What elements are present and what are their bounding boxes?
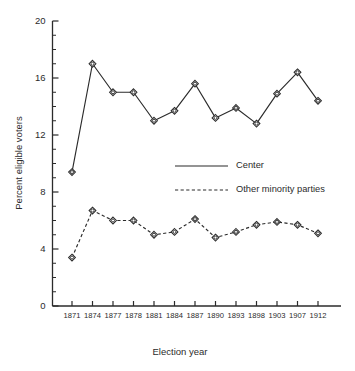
- x-tick-label: 1898: [248, 311, 265, 320]
- data-point-center: [132, 219, 135, 222]
- data-point-center: [71, 256, 74, 259]
- x-tick-label: 1903: [269, 311, 286, 320]
- data-point-center: [214, 116, 217, 119]
- data-point-center: [91, 62, 94, 65]
- x-tick-label: 1907: [289, 311, 306, 320]
- chart-legend: CenterOther minority parties: [175, 160, 325, 194]
- data-point-center: [112, 219, 115, 222]
- data-point-center: [132, 91, 135, 94]
- data-point-center: [153, 233, 156, 236]
- x-axis-title: Election year: [153, 346, 208, 357]
- data-point-center: [173, 109, 176, 112]
- y-tick-label: 12: [35, 129, 46, 140]
- x-tick-label: 1893: [228, 311, 245, 320]
- line-chart-plot: 048121620 187118741877187818811884188718…: [0, 0, 355, 371]
- data-point-center: [112, 91, 115, 94]
- data-point-center: [214, 236, 217, 239]
- legend-label-2: Other minority parties: [236, 184, 325, 194]
- x-axis: 1871187418771878188118841887189018931898…: [53, 301, 342, 320]
- data-point-center: [91, 209, 94, 212]
- y-axis: 048121620: [35, 15, 59, 311]
- data-point-center: [235, 106, 238, 109]
- y-tick-label: 16: [35, 72, 46, 83]
- x-tick-label: 1871: [64, 311, 81, 320]
- x-tick-label: 1884: [166, 311, 183, 320]
- x-tick-label: 1890: [207, 311, 224, 320]
- x-tick-label: 1877: [105, 311, 122, 320]
- x-tick-label: 1881: [146, 311, 163, 320]
- y-tick-label: 20: [35, 15, 46, 26]
- data-point-center: [153, 119, 156, 122]
- legend-label-1: Center: [236, 160, 264, 170]
- data-point-center: [317, 99, 320, 102]
- data-point-center: [255, 223, 258, 226]
- data-point-center: [296, 71, 299, 74]
- data-point-center: [276, 220, 279, 223]
- data-point-center: [317, 232, 320, 235]
- chart-container: 048121620 187118741877187818811884188718…: [0, 0, 355, 371]
- data-point-center: [235, 230, 238, 233]
- x-tick-label: 1874: [84, 311, 101, 320]
- data-series-group: [69, 60, 322, 261]
- data-point-center: [194, 218, 197, 221]
- y-tick-label: 8: [40, 186, 45, 197]
- data-point-center: [71, 171, 74, 174]
- data-point-center: [173, 230, 176, 233]
- x-tick-label: 1887: [187, 311, 204, 320]
- y-tick-label: 4: [40, 243, 45, 254]
- data-point-center: [255, 122, 258, 125]
- y-tick-label: 0: [40, 300, 45, 311]
- data-point-center: [194, 82, 197, 85]
- x-tick-label: 1878: [125, 311, 142, 320]
- y-axis-title: Percent eligible voters: [13, 116, 24, 210]
- data-point-center: [296, 223, 299, 226]
- data-point-center: [276, 92, 279, 95]
- x-tick-label: 1912: [310, 311, 327, 320]
